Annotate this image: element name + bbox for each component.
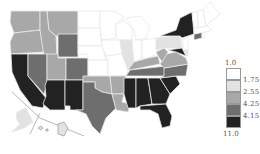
legend-break-3: 4.25 [243, 100, 259, 108]
legend-bottom-label: 11.0 [223, 130, 239, 138]
state-montana [47, 11, 78, 36]
state-indiana [132, 40, 142, 62]
legend-bin-1 [226, 68, 241, 80]
inset-divider-2 [30, 113, 40, 134]
state-new-york [160, 12, 194, 38]
state-oregon [10, 30, 44, 54]
state-washington [10, 11, 40, 33]
legend-break-1: 1.75 [243, 76, 259, 84]
state-hawaii [38, 122, 68, 136]
legend-top-label: 1.0 [225, 59, 236, 67]
state-arizona [43, 80, 65, 110]
state-south-dakota [78, 28, 102, 46]
state-new-mexico [65, 80, 83, 110]
legend-break-4: 4.15 [243, 112, 259, 120]
legend-bin-2 [226, 80, 241, 92]
state-pennsylvania [156, 36, 182, 50]
legend-break-2: 2.55 [243, 88, 259, 96]
state-alaska [12, 108, 33, 132]
legend-bin-5 [226, 116, 241, 128]
state-new-jersey [182, 38, 188, 50]
legend: 1.0 1.75 2.55 4.25 4.15 11.0 [216, 59, 260, 139]
state-rhode-island [202, 32, 205, 38]
state-north-dakota [78, 11, 100, 28]
state-florida [140, 104, 172, 128]
state-kansas [88, 60, 108, 76]
state-utah [47, 54, 66, 80]
state-maine [203, 2, 220, 26]
legend-bin-3 [226, 92, 241, 104]
legend-bin-4 [226, 104, 241, 116]
state-wyoming [58, 34, 78, 57]
state-iowa [102, 40, 122, 56]
